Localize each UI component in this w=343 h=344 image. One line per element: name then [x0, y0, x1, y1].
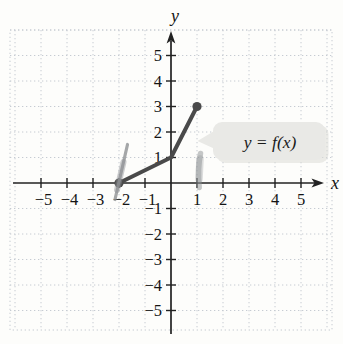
function-label-callout: y = f(x) — [198, 122, 329, 163]
y-tick-label: −4 — [144, 276, 162, 295]
x-tick-label: −3 — [87, 190, 105, 209]
graph-canvas: x y −5−4−3−2−11234554321−1−2−3−4−5 y = f… — [0, 0, 343, 344]
x-tick-label: 5 — [297, 190, 305, 209]
y-tick-label: −1 — [144, 199, 162, 218]
y-tick-label: 5 — [154, 46, 162, 65]
x-tick-label: 3 — [245, 190, 253, 209]
x-tick-label: 1 — [193, 190, 201, 209]
y-tick-label: −5 — [144, 301, 162, 320]
function-label: y = f(x) — [242, 132, 297, 152]
x-axis-label: x — [330, 173, 339, 193]
y-axis-label: y — [169, 6, 179, 26]
y-tick-label: 3 — [154, 97, 162, 116]
x-tick-label: 4 — [271, 190, 279, 209]
x-tick-label: 2 — [219, 190, 227, 209]
y-tick-label: 4 — [154, 72, 162, 91]
y-tick-label: −2 — [144, 225, 162, 244]
y-tick-label: 2 — [154, 123, 162, 142]
x-tick-label: −4 — [61, 190, 79, 209]
x-tick-label: −5 — [35, 190, 53, 209]
curve-endpoint-dot — [192, 102, 201, 111]
pen-mark-icon — [199, 159, 200, 179]
y-tick-label: −3 — [144, 250, 162, 269]
